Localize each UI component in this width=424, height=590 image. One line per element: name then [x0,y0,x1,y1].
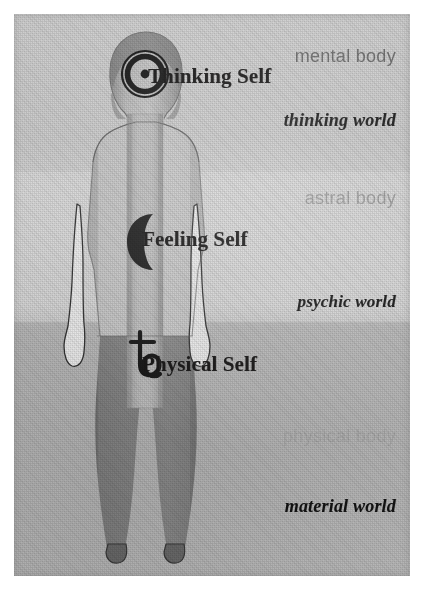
label-physical-body: physical body [283,426,396,447]
label-mental-body: mental body [295,46,396,67]
label-astral-body: astral body [305,188,396,209]
label-physical-self: Physical Self [142,352,257,377]
label-psychic-world: psychic world [298,292,396,312]
figure-upper-body [54,104,274,336]
label-material-world: material world [285,496,396,517]
figure-body-group [54,104,274,576]
label-thinking-world: thinking world [284,110,396,131]
central-column-left-edge [127,114,132,408]
figure-right-foot [164,544,185,563]
diagram-page: Thinking Self Feeling Self Physical Self… [0,0,424,590]
scanned-plate: Thinking Self Feeling Self Physical Self… [14,14,410,576]
label-feeling-self: Feeling Self [142,227,248,252]
figure-left-foot [106,544,127,563]
figure-left-arm [64,204,85,366]
label-thinking-self: Thinking Self [148,64,271,89]
